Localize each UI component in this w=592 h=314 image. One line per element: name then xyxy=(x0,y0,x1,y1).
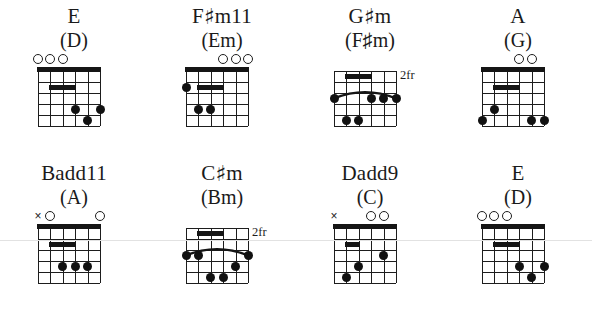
chord-name: F♯m11 xyxy=(192,4,252,28)
chord-name: C♯m xyxy=(201,161,243,185)
open-string-marker xyxy=(45,211,55,221)
fret-bar xyxy=(493,85,520,90)
string-markers xyxy=(186,54,248,68)
fret-line xyxy=(334,250,396,251)
chord-name-root: E xyxy=(511,161,524,185)
finger-dot xyxy=(194,251,203,260)
open-string-marker xyxy=(502,211,512,221)
chord-diagram: × xyxy=(312,214,428,286)
finger-dot xyxy=(71,105,80,114)
string-line xyxy=(482,228,483,283)
finger-dot xyxy=(540,116,549,125)
open-string-marker xyxy=(33,54,43,64)
string-line xyxy=(75,228,76,283)
string-line xyxy=(236,71,237,126)
chord-name-root: E xyxy=(67,4,80,28)
finger-dot xyxy=(392,94,401,103)
fret-line xyxy=(38,126,100,127)
fret-bar xyxy=(49,85,76,90)
chord-cell: E(D) xyxy=(444,157,592,314)
fret-line xyxy=(38,93,100,94)
chord-cell: Dadd9(C)× xyxy=(296,157,444,314)
finger-dot xyxy=(342,273,351,282)
chord-diagram-inner: × xyxy=(38,228,100,283)
chord-diagram-inner: × xyxy=(334,228,396,283)
string-line xyxy=(63,71,64,126)
chord-alt-name: (C) xyxy=(357,186,384,209)
chord-diagram-inner xyxy=(482,228,544,283)
chord-alt-name: (F♯m) xyxy=(345,29,395,52)
open-string-marker xyxy=(489,211,499,221)
chord-name-suffix: m11 xyxy=(215,4,252,28)
fret-line xyxy=(38,283,100,284)
chord-cell: A(G) xyxy=(444,0,592,157)
open-string-marker xyxy=(477,211,487,221)
chord-name: E xyxy=(67,4,80,28)
chord-diagram xyxy=(460,214,576,286)
fret-line xyxy=(186,82,248,83)
finger-dot xyxy=(478,116,487,125)
string-line xyxy=(100,228,101,283)
open-string-marker xyxy=(366,211,376,221)
chord-alt-name: (G) xyxy=(504,29,532,52)
string-markers xyxy=(38,54,100,68)
open-string-marker xyxy=(514,54,524,64)
string-line xyxy=(211,71,212,126)
fret-bar xyxy=(49,242,76,247)
chord-name: E xyxy=(511,161,524,185)
chord-diagram-inner xyxy=(186,228,248,283)
chord-diagram-inner xyxy=(186,71,248,126)
finger-dot xyxy=(330,94,339,103)
string-line xyxy=(75,71,76,126)
chord-alt-name: (D) xyxy=(60,29,88,52)
fret-line xyxy=(38,82,100,83)
finger-dot xyxy=(540,262,549,271)
string-line xyxy=(371,228,372,283)
muted-string-marker: × xyxy=(329,211,340,222)
chord-name-suffix: m xyxy=(375,4,392,28)
fret-line xyxy=(38,104,100,105)
chord-name: A xyxy=(510,4,525,28)
string-line xyxy=(334,228,335,283)
fret-line xyxy=(482,272,544,273)
open-string-marker xyxy=(218,54,228,64)
string-line xyxy=(50,228,51,283)
finger-dot xyxy=(194,105,203,114)
string-line xyxy=(186,71,187,126)
fret-line xyxy=(186,93,248,94)
chord-name-suffix: m xyxy=(226,161,243,185)
sharp-icon: ♯ xyxy=(364,4,375,29)
chord-alt-name: (D) xyxy=(504,186,532,209)
chord-name: Dadd9 xyxy=(342,161,399,185)
fret-line xyxy=(482,250,544,251)
fret-line xyxy=(38,261,100,262)
open-string-marker xyxy=(379,211,389,221)
fretboard-grid xyxy=(38,228,100,283)
string-line xyxy=(519,228,520,283)
string-line xyxy=(198,71,199,126)
string-line xyxy=(544,228,545,283)
fret-line xyxy=(186,126,248,127)
fret-position-label: 2fr xyxy=(252,226,267,239)
chord-name-root: C xyxy=(201,161,215,185)
open-string-marker xyxy=(231,54,241,64)
fret-line xyxy=(334,239,396,240)
chord-row: E(D)F♯m11(Em)G♯m(F♯m)2frA(G) xyxy=(0,0,592,157)
string-line xyxy=(507,228,508,283)
open-string-marker xyxy=(95,211,105,221)
finger-dot xyxy=(219,273,228,282)
string-line xyxy=(359,228,360,283)
fret-position-label: 2fr xyxy=(400,69,415,82)
fret-line xyxy=(482,239,544,240)
finger-dot xyxy=(367,94,376,103)
fret-line xyxy=(482,126,544,127)
chord-name-root: Badd11 xyxy=(41,161,107,185)
fret-bar xyxy=(197,85,224,90)
string-line xyxy=(396,228,397,283)
sharp-icon: ♯ xyxy=(204,4,215,29)
chord-diagram-inner xyxy=(38,71,100,126)
finger-dot xyxy=(342,116,351,125)
chord-row: Badd11(A)×C♯m(Bm)2frDadd9(C)×E(D) xyxy=(0,157,592,314)
chord-name-root: G xyxy=(349,4,364,28)
chord-diagram: 2fr xyxy=(312,57,428,129)
